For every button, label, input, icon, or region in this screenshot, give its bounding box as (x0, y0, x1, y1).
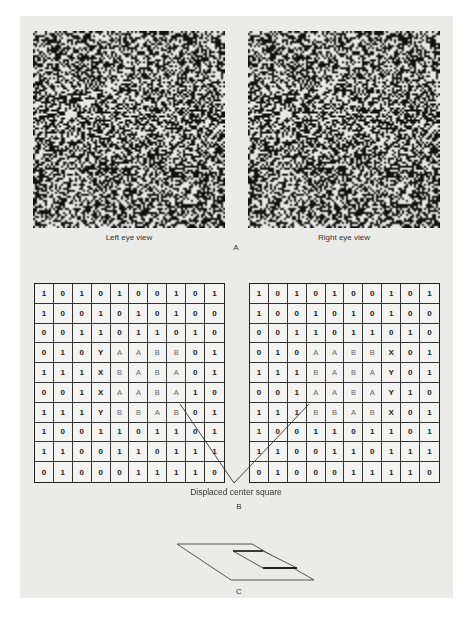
displaced-center-square-annotation: Displaced center square (190, 487, 282, 497)
grid-cell: 0 (54, 304, 73, 324)
grid-cell: 1 (92, 324, 111, 344)
grid-cell: 1 (420, 423, 439, 443)
grid-cell: 1 (363, 324, 382, 344)
grid-cell: B (307, 363, 326, 383)
grid-cell: 1 (269, 403, 288, 423)
grid-cell: A (344, 403, 363, 423)
grid-cell: 1 (307, 304, 326, 324)
grid-cell: 1 (129, 324, 148, 344)
grid-cell: 1 (35, 284, 54, 304)
grid-cell: 1 (111, 284, 130, 304)
grid-cell: 1 (148, 324, 167, 344)
grid-cell: 1 (269, 462, 288, 482)
grid-cell: 1 (288, 403, 307, 423)
left-eye-caption: Left eye view (106, 233, 153, 242)
grid-cell: A (111, 343, 130, 363)
grid-cell: 1 (35, 403, 54, 423)
grid-cell: 1 (54, 442, 73, 462)
grid-cell: 1 (420, 363, 439, 383)
grid-cell: B (129, 403, 148, 423)
grid-cell: 0 (186, 403, 205, 423)
grid-cell: 1 (307, 423, 326, 443)
grid-cell: 1 (54, 363, 73, 383)
grid-cell: 1 (129, 442, 148, 462)
grid-cell: 0 (186, 363, 205, 383)
grid-cell: A (326, 383, 345, 403)
grid-cell: 1 (73, 403, 92, 423)
grid-cell: 0 (420, 324, 439, 344)
grid-cell: A (167, 363, 186, 383)
grid-cell: 0 (420, 304, 439, 324)
grid-cell: 1 (401, 324, 420, 344)
grid-cell: 1 (326, 442, 345, 462)
grid-cell: B (167, 403, 186, 423)
grid-cell: 1 (288, 324, 307, 344)
grid-cell: 0 (54, 284, 73, 304)
grid-cell: 0 (401, 363, 420, 383)
grid-cell: 1 (288, 383, 307, 403)
grid-cell: A (363, 363, 382, 383)
grid-cell: 1 (344, 442, 363, 462)
left-binary-grid: 101010010110010101000011011010010YAABB01… (34, 283, 225, 483)
grid-cell: B (148, 363, 167, 383)
grid-cell: Y (382, 383, 401, 403)
grid-cell: 0 (92, 462, 111, 482)
grid-cell: 1 (326, 284, 345, 304)
grid-cell: 1 (382, 462, 401, 482)
grid-cell: B (344, 343, 363, 363)
grid-cell: 1 (205, 343, 224, 363)
grid-cell: 0 (269, 284, 288, 304)
grid-cell: A (307, 383, 326, 403)
grid-cell: 0 (205, 383, 224, 403)
grid-cell: 0 (288, 423, 307, 443)
grid-cell: B (326, 403, 345, 423)
grid-cell: 0 (420, 383, 439, 403)
grid-cell: 1 (148, 423, 167, 443)
grid-cell: 1 (205, 442, 224, 462)
grid-cell: 1 (250, 363, 269, 383)
grid-cell: 0 (401, 284, 420, 304)
grid-cell: 0 (250, 324, 269, 344)
grid-cell: B (344, 383, 363, 403)
grid-cell: 1 (35, 363, 54, 383)
grid-cell: 1 (148, 462, 167, 482)
grid-cell: 1 (420, 284, 439, 304)
left-eye-random-dot-stereogram (33, 31, 225, 228)
grid-cell: 1 (186, 462, 205, 482)
grid-cell: 0 (35, 383, 54, 403)
grid-cell: 1 (420, 403, 439, 423)
grid-cell: 0 (250, 462, 269, 482)
grid-cell: 0 (326, 304, 345, 324)
grid-cell: A (307, 343, 326, 363)
grid-cell: 1 (129, 304, 148, 324)
grid-cell: 0 (326, 462, 345, 482)
panel-label-a: A (233, 243, 238, 252)
grid-cell: 1 (269, 363, 288, 383)
grid-cell: 0 (111, 304, 130, 324)
grid-cell: 0 (111, 324, 130, 344)
grid-cell: B (363, 403, 382, 423)
grid-cell: Y (382, 363, 401, 383)
grid-cell: 1 (382, 304, 401, 324)
grid-cell: 0 (186, 423, 205, 443)
grid-cell: 0 (269, 304, 288, 324)
grid-cell: A (167, 383, 186, 403)
grid-cell: 0 (401, 304, 420, 324)
grid-cell: 1 (250, 304, 269, 324)
grid-cell: 0 (288, 442, 307, 462)
grid-cell: 1 (73, 383, 92, 403)
grid-cell: 1 (111, 442, 130, 462)
grid-cell: 1 (129, 462, 148, 482)
grid-cell: Y (92, 343, 111, 363)
grid-cell: 1 (420, 442, 439, 462)
grid-cell: 1 (167, 442, 186, 462)
grid-cell: B (363, 343, 382, 363)
grid-cell: 0 (186, 304, 205, 324)
grid-cell: 0 (73, 343, 92, 363)
grid-cell: 1 (205, 423, 224, 443)
grid-cell: 0 (54, 324, 73, 344)
grid-cell: 1 (205, 403, 224, 423)
grid-cell: 1 (167, 284, 186, 304)
grid-cell: 1 (73, 324, 92, 344)
right-binary-grid: 101010010110010101000011011010010AABBX01… (249, 283, 440, 483)
